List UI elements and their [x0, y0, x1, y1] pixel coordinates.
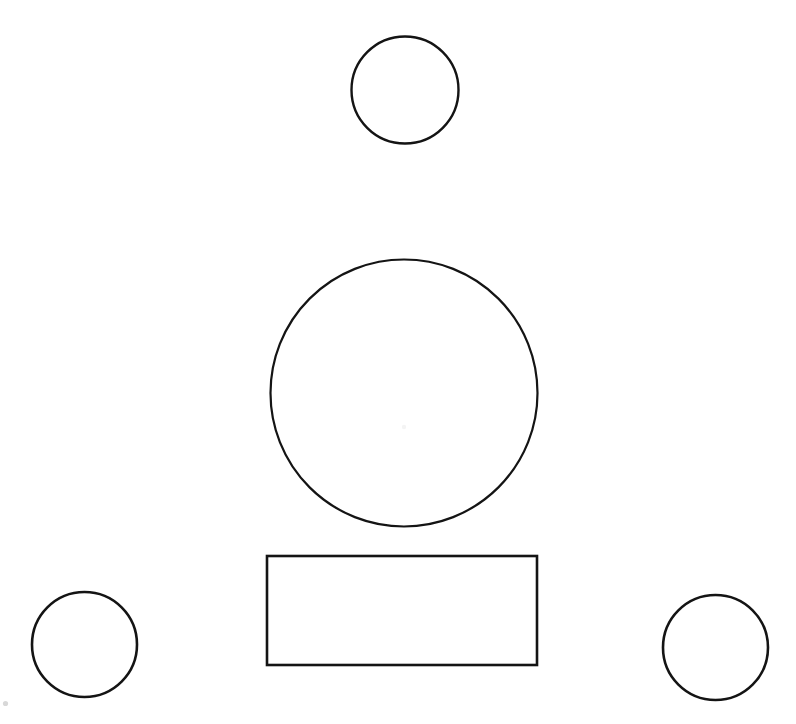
faint-corner-mark [3, 701, 8, 706]
drawing-canvas [0, 0, 796, 724]
faint-center-mark [402, 425, 406, 429]
shapes-diagram [0, 0, 796, 724]
canvas-background [0, 0, 796, 724]
